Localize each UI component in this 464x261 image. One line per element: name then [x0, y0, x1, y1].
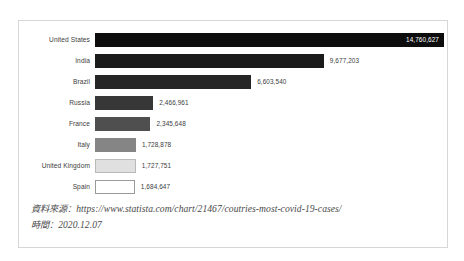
chart-footnote: 資料來源：https://www.statista.com/chart/2146…: [31, 201, 441, 233]
bar-track: 6,603,540: [95, 75, 447, 89]
bar-category-label: Italy: [19, 141, 95, 148]
footnote-time-line: 時間：2020.12.07: [31, 217, 441, 233]
bar-track: 1,727,751: [95, 159, 447, 173]
bar-value-label: 9,677,203: [330, 54, 359, 68]
bar-category-label: United Kingdom: [19, 162, 95, 169]
bar: [95, 33, 444, 47]
bar-row: United States14,760,627: [19, 29, 447, 50]
bar: [95, 117, 150, 131]
bar-row: Italy1,728,878: [19, 134, 447, 155]
bar-track: 9,677,203: [95, 54, 447, 68]
bar-row: France2,345,648: [19, 113, 447, 134]
bar-row: India9,677,203: [19, 50, 447, 71]
bar-category-label: France: [19, 120, 95, 127]
bar-value-label: 1,728,878: [142, 138, 171, 152]
footnote-time-value: 2020.12.07: [58, 219, 102, 230]
bar-track: 14,760,627: [95, 33, 447, 47]
bar: [95, 96, 153, 110]
bar-category-label: Spain: [19, 183, 95, 190]
bar-row: United Kingdom1,727,751: [19, 155, 447, 176]
bar-row: Russia2,466,961: [19, 92, 447, 113]
bar: [95, 138, 136, 152]
footnote-time-label: 時間：: [31, 219, 58, 230]
bar-track: 2,345,648: [95, 117, 447, 131]
bar-track: 1,684,647: [95, 180, 447, 194]
bar-category-label: United States: [19, 36, 95, 43]
footnote-source-label: 資料來源：: [31, 203, 76, 214]
footnote-source-line: 資料來源：https://www.statista.com/chart/2146…: [31, 201, 441, 217]
bar-value-label: 2,466,961: [159, 96, 188, 110]
bar-category-label: Russia: [19, 99, 95, 106]
bar-chart-plot: United States14,760,627India9,677,203Bra…: [19, 29, 447, 205]
bar-value-label: 14,760,627: [399, 33, 439, 47]
footnote-source-url: https://www.statista.com/chart/21467/cou…: [76, 203, 341, 214]
chart-figure: United States14,760,627India9,677,203Bra…: [18, 20, 448, 248]
bar-value-label: 1,684,647: [141, 180, 170, 194]
bar-row: Spain1,684,647: [19, 176, 447, 197]
bar-value-label: 2,345,648: [156, 117, 185, 131]
bar-category-label: Brazil: [19, 78, 95, 85]
bar-value-label: 6,603,540: [257, 75, 286, 89]
bar: [95, 159, 136, 173]
bar-row: Brazil6,603,540: [19, 71, 447, 92]
bar: [95, 75, 251, 89]
bar: [95, 180, 135, 194]
bar-track: 1,728,878: [95, 138, 447, 152]
bar-category-label: India: [19, 57, 95, 64]
bar-value-label: 1,727,751: [142, 159, 171, 173]
bar-track: 2,466,961: [95, 96, 447, 110]
bar: [95, 54, 324, 68]
